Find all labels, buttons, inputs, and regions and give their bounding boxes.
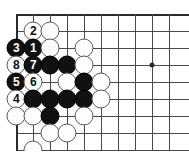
stone-white-c5r7 <box>75 107 94 126</box>
move-number-label: 4 <box>13 93 19 105</box>
move-number-label: 3 <box>13 42 19 54</box>
move-number-label: 6 <box>30 76 36 88</box>
move-number-label: 5 <box>13 76 19 88</box>
grid-line-horizontal-1 <box>16 14 189 16</box>
move-number-label: 8 <box>13 59 19 71</box>
stone-white-c2r9 <box>24 141 43 152</box>
grid-line-vertical-7 <box>118 14 119 151</box>
stone-white-c4r8 <box>58 124 77 143</box>
grid-line-vertical-8 <box>135 14 136 151</box>
grid-line-vertical-9 <box>152 14 153 151</box>
star-point-hoshi <box>150 63 155 68</box>
grid-line-vertical-10 <box>169 14 170 151</box>
stone-white-c6r6 <box>92 90 111 109</box>
move-number-label: 2 <box>30 25 36 37</box>
go-board-diagram: 23187564 <box>0 0 189 151</box>
move-number-label: 1 <box>30 42 36 54</box>
move-number-label: 7 <box>30 59 36 71</box>
